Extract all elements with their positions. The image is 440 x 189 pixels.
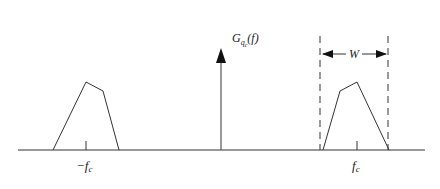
left-band-spectrum [53, 82, 119, 150]
bandwidth-arrow-left-icon [322, 50, 333, 58]
bandwidth-arrow-right-icon [376, 50, 387, 58]
right-fc-label: fc [352, 158, 360, 174]
bandwidth-label: W [349, 47, 360, 61]
left-fc-label: −fc [76, 158, 92, 174]
right-band-spectrum [323, 82, 389, 150]
impulse-arrowhead-icon [216, 48, 226, 63]
spectrum-label: Gqc(f) [232, 31, 259, 48]
spectrum-diagram: Gqc(f) −fc fc W [0, 0, 440, 189]
